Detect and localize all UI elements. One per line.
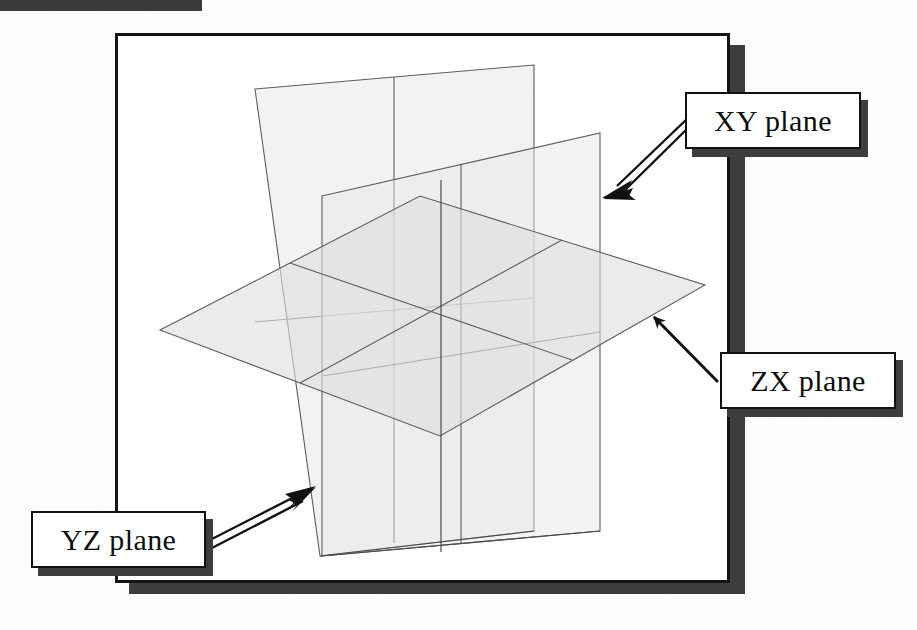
- callout-zx-plane[interactable]: ZX plane: [720, 352, 896, 409]
- leader-arrow-xy: [602, 118, 688, 200]
- plane-zx: [160, 196, 705, 436]
- callout-yz-label: YZ plane: [61, 525, 177, 555]
- callout-xy-label: XY plane: [714, 106, 832, 136]
- callout-xy-plane[interactable]: XY plane: [685, 92, 861, 149]
- leader-arrow-zx: [654, 317, 718, 382]
- callout-zx-label: ZX plane: [750, 366, 866, 396]
- callout-yz-plane[interactable]: YZ plane: [31, 511, 206, 568]
- leader-arrow-yz: [208, 486, 316, 549]
- figure-page: XY plane ZX plane YZ plane: [0, 0, 917, 630]
